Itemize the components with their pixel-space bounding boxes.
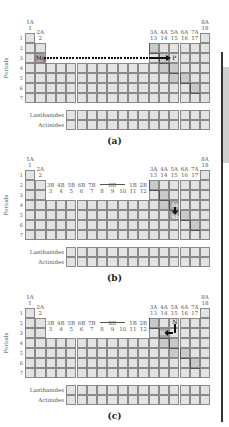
element-cell [56,358,66,368]
group-number-2: 2 [34,310,46,316]
element-cell [159,180,169,190]
element-cell [77,338,87,348]
metalloid-staircase-line [149,190,159,191]
element-cell [200,53,210,63]
element-cell [25,348,35,358]
element-cell [149,83,159,93]
element-cell [138,73,148,83]
metalloid-staircase-line [159,63,169,64]
dotted-arrow-dot [140,57,142,59]
f-block-cell [87,395,97,405]
metalloid-staircase-line [169,348,179,349]
element-cell [180,43,190,53]
element-cell [128,348,138,358]
dotted-arrow-dot [60,57,62,59]
f-block-cell [77,110,87,120]
f-block-cell [66,395,76,405]
sidebar-shade [223,67,229,163]
element-cell [118,230,128,240]
f-block-cell [97,395,107,405]
element-cell [169,348,179,358]
element-cell [56,83,66,93]
element-cell [56,368,66,378]
f-block-cell [107,385,117,395]
periods-axis-label: Periods [3,195,9,216]
element-cell [200,338,210,348]
element-cell [180,180,190,190]
dotted-arrow-dot [72,57,74,59]
element-cell [87,230,97,240]
f-block-cell [66,110,76,120]
element-cell [46,83,56,93]
metalloid-staircase-line [149,328,159,329]
dotted-arrow-dot [92,57,94,59]
element-cell [159,63,169,73]
element-cell [159,358,169,368]
element-cell [118,200,128,210]
f-block-cell [77,247,87,257]
f-block-cell [66,385,76,395]
f-block-cell [169,385,179,395]
lanthanides-label: Lanthanides [4,112,64,118]
element-cell [128,200,138,210]
f-block-cell [97,385,107,395]
element-cell [66,368,76,378]
dotted-arrow-dot [82,57,84,59]
element-cell [200,220,210,230]
element-cell [190,210,200,220]
dotted-arrow-dot [130,57,132,59]
element-cell [107,73,117,83]
element-cell [118,220,128,230]
element-cell [107,358,117,368]
element-cell [97,93,107,103]
f-block-cell [138,395,148,405]
element-cell [25,180,35,190]
element-cell [46,358,56,368]
element-cell [118,348,128,358]
dotted-arrow-dot [124,57,126,59]
element-cell [180,348,190,358]
arrow-shaft-down [174,324,176,333]
element-cell [66,220,76,230]
dotted-arrow-dot [53,57,55,59]
period-number: 3 [15,330,23,336]
element-cell [25,190,35,200]
f-block-cell [159,385,169,395]
element-cell [169,83,179,93]
period-number: 4 [15,65,23,71]
period-number: 7 [15,370,23,376]
element-cell [149,368,159,378]
element-cell [169,180,179,190]
element-cell [118,63,128,73]
element-cell [190,220,200,230]
period-number: 4 [15,340,23,346]
f-block-cell [180,110,190,120]
element-cell [138,93,148,103]
element-cell [200,368,210,378]
element-cell [138,63,148,73]
f-block-cell [107,110,117,120]
element-cell [149,230,159,240]
element-cell [25,220,35,230]
element-cell [180,83,190,93]
metalloid-staircase-line [190,368,200,369]
element-cell [200,43,210,53]
element-cell [25,338,35,348]
metalloid-staircase-line [190,83,191,93]
element-cell [97,73,107,83]
element-cell [169,338,179,348]
f-block-cell [169,110,179,120]
f-block-cell [200,385,210,395]
element-cell [159,83,169,93]
f-block-cell [149,385,159,395]
element-cell [107,220,117,230]
element-cell [149,328,159,338]
f-block-cell [190,257,200,267]
metalloid-staircase-line [149,53,159,54]
dotted-arrow-dot [108,57,110,59]
element-cell [87,338,97,348]
f-block-cell [180,120,190,130]
element-cell [46,220,56,230]
element-cell [25,200,35,210]
f-block-cell [138,247,148,257]
